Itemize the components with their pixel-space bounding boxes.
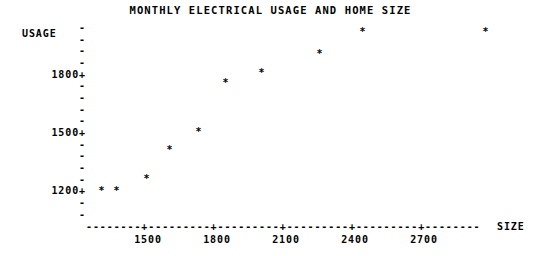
x-axis-tick-label: 2400 (335, 234, 375, 245)
data-point: * (195, 127, 202, 137)
y-axis-tick-mark: - (0, 150, 86, 161)
y-axis-tick-mark: - (0, 104, 86, 115)
y-axis-tick-mark: - (0, 162, 86, 173)
x-axis-tick-label: 1800 (197, 234, 237, 245)
data-point: * (258, 68, 265, 78)
y-axis-tick-mark: - (0, 57, 86, 68)
data-point: * (482, 27, 489, 37)
x-axis-tick-label: 2100 (266, 234, 306, 245)
y-axis-tick-mark: - (0, 22, 86, 33)
y-axis-tick-mark: - (0, 34, 86, 45)
y-axis-tick-mark: - (0, 80, 86, 91)
chart-title: MONTHLY ELECTRICAL USAGE AND HOME SIZE (0, 4, 541, 16)
y-axis-tick-mark: - (0, 174, 86, 185)
y-axis-tick-mark: - (0, 197, 86, 208)
y-axis-tick-mark: - (0, 209, 86, 220)
y-axis-tick-mark: - (0, 139, 86, 150)
data-point: * (316, 49, 323, 59)
y-axis-tick-label: 1800+ (0, 69, 86, 80)
data-point: * (113, 186, 120, 196)
y-axis-tick-label: 1500+ (0, 127, 86, 138)
data-point: * (166, 145, 173, 155)
data-point: * (222, 78, 229, 88)
data-point: * (143, 174, 150, 184)
scatter-plot-canvas: MONTHLY ELECTRICAL USAGE AND HOME SIZE U… (0, 0, 541, 256)
data-point: * (359, 27, 366, 37)
y-axis-tick-mark: - (0, 45, 86, 56)
y-axis-tick-mark: - (0, 115, 86, 126)
x-axis-caption: SIZE (497, 221, 525, 232)
y-axis-tick-label: 1200+ (0, 185, 86, 196)
x-axis-tick-label: 2700 (404, 234, 444, 245)
data-point: * (98, 186, 105, 196)
y-axis-tick-mark: - (0, 92, 86, 103)
x-axis-tick-label: 1500 (128, 234, 168, 245)
x-axis-rule: --------+---------+---------+---------+-… (86, 221, 480, 232)
